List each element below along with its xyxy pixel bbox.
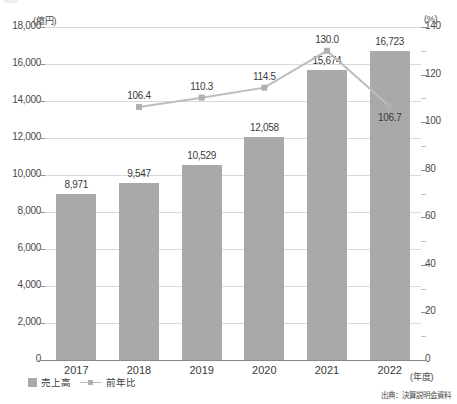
- legend-yoy-label: 前年比: [106, 375, 136, 389]
- sales-and-yoy-chart: (億円) (%) (年度) 02,0004,0006,0008,00010,00…: [0, 0, 457, 404]
- yoy-line-series: [0, 0, 457, 404]
- yoy-marker-2022: [387, 103, 393, 109]
- yoy-value-label-2022: 106.7: [355, 112, 425, 123]
- yoy-marker-2020: [261, 85, 267, 91]
- yoy-value-label-2018: 106.4: [104, 90, 174, 101]
- yoy-marker-2019: [199, 95, 205, 101]
- source-note: 出典：決算説明会資料: [381, 389, 451, 400]
- legend-bar-swatch-icon: [28, 378, 37, 387]
- yoy-value-label-2020: 114.5: [229, 71, 299, 82]
- yoy-value-label-2019: 110.3: [167, 81, 237, 92]
- yoy-value-label-2021: 130.0: [292, 34, 362, 45]
- chart-legend: 売上高 前年比: [28, 375, 136, 389]
- legend-item-sales: 売上高: [28, 375, 71, 389]
- legend-line-swatch-icon: [80, 378, 102, 387]
- legend-item-yoy: 前年比: [80, 375, 136, 389]
- legend-sales-label: 売上高: [41, 375, 71, 389]
- yoy-marker-2018: [136, 104, 142, 110]
- yoy-marker-2021: [324, 48, 330, 54]
